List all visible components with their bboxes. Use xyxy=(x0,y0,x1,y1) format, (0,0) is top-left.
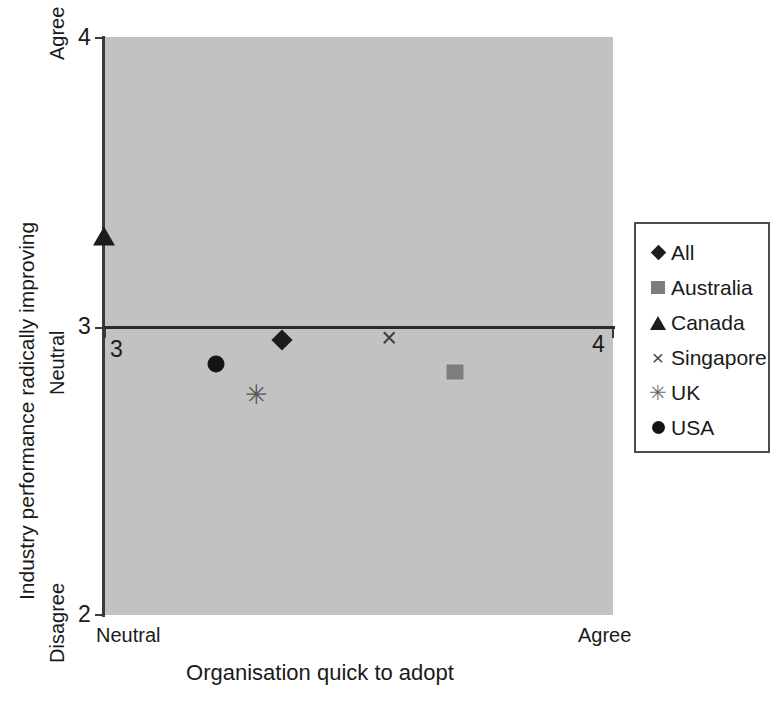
legend-item-usa[interactable]: USA xyxy=(636,410,768,445)
x-tick-3 xyxy=(104,329,106,338)
legend-item-singapore[interactable]: × Singapore xyxy=(636,340,768,375)
x-tick-4 xyxy=(612,329,614,338)
y-tick-2 xyxy=(95,614,104,616)
y-tick-3 xyxy=(95,327,104,329)
y-axis-word-disagree: Disagree xyxy=(46,583,68,663)
y-axis-tick-label-4: 4 xyxy=(78,26,91,49)
x-axis-word-agree: Agree xyxy=(578,624,631,646)
data-point-canada xyxy=(93,227,115,246)
square-marker-icon xyxy=(645,275,671,301)
legend-item-all[interactable]: All xyxy=(636,235,768,270)
legend-item-uk[interactable]: ✳ UK xyxy=(636,375,768,410)
legend-label: UK xyxy=(671,381,700,405)
legend-item-canada[interactable]: Canada xyxy=(636,305,768,340)
legend-label: USA xyxy=(671,416,714,440)
data-point-usa xyxy=(207,355,224,372)
x-marker-icon: × xyxy=(645,345,671,371)
legend: All Australia Canada × Singapore ✳ UK US… xyxy=(634,222,770,453)
triangle-marker-icon xyxy=(645,310,671,336)
x-axis-word-neutral: Neutral xyxy=(96,624,160,646)
y-axis-tick-label-3: 3 xyxy=(78,315,91,338)
y-tick-4 xyxy=(95,37,104,39)
x-axis-tick-label-3: 3 xyxy=(110,338,123,361)
circle-marker-icon xyxy=(645,415,671,441)
data-point-singapore: × xyxy=(381,324,397,351)
legend-label: Australia xyxy=(671,276,753,300)
legend-label: Singapore xyxy=(671,346,767,370)
legend-label: All xyxy=(671,241,694,265)
x-axis-line xyxy=(104,326,615,329)
legend-label: Canada xyxy=(671,311,745,335)
chart-figure: 4 3 2 3 4 Agree Neutral Disagree Neutral… xyxy=(0,0,775,704)
data-point-australia xyxy=(447,365,464,380)
y-axis-tick-label-2: 2 xyxy=(78,603,91,626)
y-axis-title: Industry performance radically improving xyxy=(16,222,38,600)
diamond-marker-icon xyxy=(645,240,671,266)
star-marker-icon: ✳ xyxy=(645,380,671,406)
x-axis-tick-label-4: 4 xyxy=(592,333,605,356)
y-axis-word-neutral: Neutral xyxy=(46,331,68,395)
y-axis-word-agree: Agree xyxy=(46,7,68,60)
x-axis-title: Organisation quick to adopt xyxy=(0,660,640,686)
legend-item-australia[interactable]: Australia xyxy=(636,270,768,305)
data-point-uk: ✳ xyxy=(245,382,268,409)
